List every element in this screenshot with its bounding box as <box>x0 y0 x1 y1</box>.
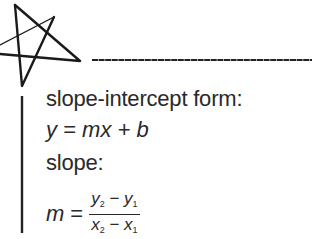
slope-label: slope: <box>46 150 104 176</box>
num-op: − <box>105 189 124 208</box>
numerator: y2 − y1 <box>89 190 139 215</box>
den-var-b: x <box>124 215 133 234</box>
den-var-a: x <box>91 215 100 234</box>
formula-equals: = <box>70 201 83 227</box>
formula-lhs: m <box>46 201 64 227</box>
denominator: x2 − x1 <box>89 215 139 239</box>
slope-intercept-label: slope-intercept form: <box>46 86 242 112</box>
num-sub-b: 1 <box>133 199 138 209</box>
den-op: − <box>105 215 124 234</box>
slope-intercept-equation: y = mx + b <box>46 117 149 143</box>
fraction: y2 − y1 x2 − x1 <box>89 190 139 239</box>
slope-formula: m = y2 − y1 x2 − x1 <box>46 193 140 235</box>
num-var-b: y <box>124 189 133 208</box>
num-var-a: y <box>91 189 100 208</box>
den-sub-b: 1 <box>133 225 138 235</box>
hand-drawn-star-icon <box>0 5 80 86</box>
